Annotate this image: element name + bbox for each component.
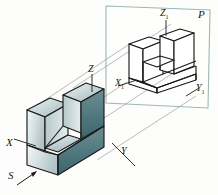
sight-arrow-head xyxy=(31,171,37,177)
label-sight-direction: S xyxy=(8,170,14,181)
label-axis-y: Y xyxy=(121,146,127,156)
label-axis-x: X xyxy=(6,137,13,148)
label-axis-y1: Y1 xyxy=(196,83,205,95)
label-axis-z: Z xyxy=(88,64,94,74)
sight-direction-arrow xyxy=(17,171,37,185)
projector-line-4 xyxy=(97,96,196,160)
label-axis-z1: Z1 xyxy=(160,8,169,20)
label-picture-plane: P xyxy=(198,9,205,20)
solid-right-inner xyxy=(63,95,81,133)
proj-right-front xyxy=(160,36,174,74)
projection-diagram xyxy=(0,0,218,195)
solid-v-block xyxy=(27,83,104,175)
label-axis-x1: X1 xyxy=(115,78,124,90)
proj-left-front xyxy=(129,44,143,82)
